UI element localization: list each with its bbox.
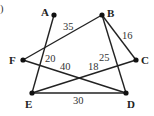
edge-weight-label: 40 [60,61,71,72]
node-label-b: B [107,7,115,19]
node-label-a: A [41,6,49,18]
edge-weight-label: 30 [73,95,84,106]
node-d [123,90,128,95]
node-label-f: F [9,54,16,66]
node-b [99,12,104,17]
weighted-graph: 20351625401830ABCDEF ) [0,0,154,116]
nodes-layer [20,12,138,95]
node-c [133,57,138,62]
graph-diagram: 20351625401830ABCDEF ) [0,0,154,116]
corner-mark: ) [0,3,4,15]
edge-weight-label: 35 [63,21,74,32]
node-a [51,12,56,17]
node-e [29,90,34,95]
node-f [20,57,25,62]
node-label-c: C [141,54,149,66]
edge-f-d [23,60,126,93]
edge-weight-label: 18 [88,61,99,72]
node-label-d: D [127,98,135,110]
edge-weight-label: 25 [99,52,110,63]
node-label-e: E [25,98,32,110]
edge-weight-label: 16 [122,30,133,41]
edge-weight-label: 20 [45,53,56,64]
edges-layer [23,15,136,93]
